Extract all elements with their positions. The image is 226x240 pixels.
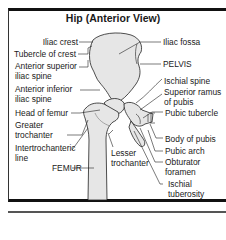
label-greater-trochanter: Greater trochanter — [15, 120, 53, 140]
label-pubic-tubercle: Pubic tubercle — [165, 108, 218, 118]
label-femur: FEMUR — [52, 163, 82, 173]
label-anterior-inferior-iliac-spine: Anterior inferior iliac spine — [15, 84, 72, 104]
label-text: FEMUR — [52, 163, 82, 173]
label-lesser-trochanter: Lesser trochanter — [111, 148, 149, 168]
label-head-of-femur: Head of femur — [15, 108, 68, 118]
label-text: Greater — [15, 120, 53, 130]
label-pelvis: PELVIS — [163, 59, 192, 69]
label-text: Superior ramus — [164, 87, 221, 97]
label-text: Tubercle of crest — [14, 49, 76, 59]
label-obturator-foramen: Obturator foramen — [165, 157, 200, 177]
label-superior-ramus-of-pubis: Superior ramus of pubis — [164, 87, 221, 107]
label-text: Anterior inferior — [15, 84, 72, 94]
label-text: Anterior superior — [15, 61, 77, 71]
label-text: trochanter — [15, 130, 53, 140]
label-text: Body of pubis — [165, 134, 216, 144]
label-ischial-tuberosity: Ischial tuberosity — [168, 179, 204, 199]
label-iliac-crest: Iliac crest — [8, 37, 78, 47]
label-text: Pubic tubercle — [165, 108, 218, 118]
label-body-of-pubis: Body of pubis — [165, 134, 216, 144]
label-text: Obturator — [165, 157, 200, 167]
label-text: Ischial — [168, 179, 204, 189]
label-text: of pubis — [164, 97, 221, 107]
label-intertrochanteric-line: Intertrochanteric line — [15, 143, 76, 163]
label-pubic-arch: Pubic arch — [165, 146, 205, 156]
label-text: iliac spine — [15, 94, 72, 104]
label-text: Intertrochanteric — [15, 143, 76, 153]
label-text: Pubic arch — [165, 146, 205, 156]
label-anterior-superior-iliac-spine: Anterior superior iliac spine — [15, 61, 77, 81]
label-text: Iliac fossa — [163, 37, 200, 47]
label-text: Ischial spine — [164, 76, 210, 86]
ilium-shape — [90, 33, 142, 102]
label-text: Head of femur — [15, 108, 68, 118]
label-text: foramen — [165, 167, 200, 177]
label-text: trochanter — [111, 158, 149, 168]
label-iliac-fossa: Iliac fossa — [163, 37, 200, 47]
label-text: PELVIS — [163, 59, 192, 69]
label-text: iliac spine — [15, 71, 77, 81]
label-text: line — [15, 153, 76, 163]
label-ischial-spine: Ischial spine — [164, 76, 210, 86]
label-text: Iliac crest — [43, 37, 78, 47]
label-tubercle-of-crest: Tubercle of crest — [8, 49, 76, 59]
label-text: tuberosity — [168, 189, 204, 199]
label-text: Lesser — [111, 148, 149, 158]
